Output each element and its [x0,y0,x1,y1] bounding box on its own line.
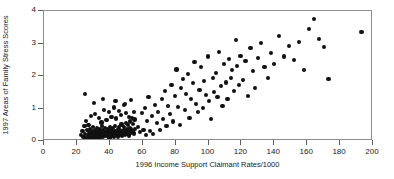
data-point [189,97,193,101]
data-point [297,40,301,44]
data-point [104,118,108,122]
x-tick-label: 0 [28,147,58,156]
data-point [173,94,177,98]
data-point [169,83,173,87]
data-point [209,117,213,121]
data-points-layer [44,11,371,139]
data-point [204,93,208,97]
data-point [262,65,266,69]
data-point [132,110,136,114]
data-point [150,114,154,118]
x-tick-mark [43,140,44,145]
data-point [132,131,136,135]
data-point [292,58,296,62]
data-point [224,80,228,84]
data-point [206,54,210,58]
data-point [217,50,221,54]
data-point [132,117,136,121]
x-tick-label: 180 [324,147,354,156]
data-point [140,111,144,115]
x-tick-mark [339,140,340,145]
data-point [322,45,326,49]
data-point [178,123,182,127]
data-point [141,128,145,132]
data-point [234,38,238,42]
data-point [151,132,155,136]
data-point [238,54,242,58]
data-point [136,125,140,129]
data-point [232,89,236,93]
x-tick-label: 60 [127,147,157,156]
data-point [156,110,160,114]
data-point [219,84,223,88]
data-point [235,64,239,68]
data-point [158,128,162,132]
data-point [143,106,147,110]
scatter-chart-figure: 1997 Areas of Family Stress Scores 01234… [0,0,394,179]
data-point [123,102,127,106]
data-point [129,98,133,102]
data-point [163,89,167,93]
data-point [202,79,206,83]
data-point [92,101,96,105]
data-point [259,41,263,45]
data-point [214,71,218,75]
data-point [317,37,321,41]
y-tick-label: 2 [24,71,36,79]
x-tick-mark [273,140,274,145]
data-point [187,116,191,120]
data-point [243,59,247,63]
x-tick-label: 160 [291,147,321,156]
data-point [241,78,245,82]
data-point [229,76,233,80]
data-point [326,77,330,81]
data-point [312,17,316,21]
data-point [155,121,159,125]
data-point [282,54,286,58]
data-point [269,51,273,55]
x-tick-label: 20 [61,147,91,156]
data-point [225,97,229,101]
data-point [222,62,226,66]
data-point [211,76,215,80]
data-point [266,76,270,80]
data-point [230,68,234,72]
data-point [201,106,205,110]
data-point [192,60,196,64]
y-tick-label: 1 [24,104,36,112]
data-point [183,108,187,112]
plot-area [43,10,372,140]
data-point [212,90,216,94]
x-tick-label: 80 [160,147,190,156]
x-tick-mark [240,140,241,145]
data-point [207,99,211,103]
data-point [144,133,148,137]
x-axis-title: 1996 Income Support Claimant Rates/1000 [43,160,372,169]
x-tick-mark [306,140,307,145]
data-point [251,69,255,73]
data-point [146,95,150,99]
data-point [93,112,97,116]
data-point [99,120,103,124]
data-point [161,117,165,121]
data-point [237,83,241,87]
data-point [272,62,276,66]
data-point [101,97,105,101]
data-point [109,115,113,119]
x-tick-mark [142,140,143,145]
data-point [359,30,363,34]
data-point [102,108,106,112]
data-point [227,57,231,61]
data-point [166,104,170,108]
x-tick-label: 120 [225,147,255,156]
x-tick-label: 140 [258,147,288,156]
data-point [196,110,200,114]
data-point [107,110,111,114]
data-point [145,119,149,123]
data-point [113,99,117,103]
x-tick-label: 40 [94,147,124,156]
data-point [168,112,172,116]
data-point [191,81,195,85]
data-point [186,72,190,76]
data-point [176,105,180,109]
